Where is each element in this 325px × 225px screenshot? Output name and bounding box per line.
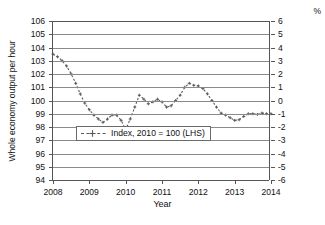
y-axis-left-tick-mark	[49, 114, 53, 115]
x-axis-tick-mark	[162, 180, 163, 184]
y-axis-left-tick-mark	[49, 61, 53, 62]
data-point-marker	[133, 106, 136, 109]
y-axis-right-tick-mark	[271, 127, 275, 128]
y-axis-left-tick-mark	[49, 101, 53, 102]
y-axis-left-tick-mark	[49, 154, 53, 155]
x-axis-tick-label: 2014	[261, 187, 280, 197]
x-axis-tick-label: 2011	[153, 187, 171, 197]
gridline	[53, 101, 269, 102]
x-axis-title: Year	[0, 199, 325, 209]
x-axis-tick-mark	[53, 180, 54, 184]
x-axis-tick-mark	[271, 180, 272, 184]
y-axis-right-tick-label: -5	[278, 162, 308, 172]
y-axis-left-tick-label: 95	[5, 162, 45, 172]
y-axis-right-tick-mark	[271, 154, 275, 155]
y-axis-right-tick-label: -3	[278, 135, 308, 145]
y-axis-right-tick-mark	[271, 140, 275, 141]
gridline	[53, 21, 269, 22]
y-axis-right-tick-label: -6	[278, 175, 308, 185]
y-axis-right-tick-mark	[271, 34, 275, 35]
x-axis-tick-label: 2010	[116, 187, 135, 197]
y-axis-left-tick-label: 102	[5, 69, 45, 79]
y-axis-right-tick-label: 2	[278, 69, 308, 79]
y-axis-left-tick-mark	[49, 48, 53, 49]
y-axis-left-tick-mark	[49, 140, 53, 141]
y-axis-right-tick-label: -1	[278, 109, 308, 119]
data-point-marker	[129, 118, 132, 121]
x-axis-tick-mark	[198, 180, 199, 184]
x-axis-tick-mark	[126, 180, 127, 184]
series-line	[53, 54, 271, 130]
x-axis-tick-mark	[235, 180, 236, 184]
data-point-marker	[56, 55, 59, 58]
plot-area: 106610551044103310221011100099-198-297-3…	[52, 21, 270, 180]
data-point-marker	[138, 94, 141, 97]
y-axis-left-tick-label: 103	[5, 56, 45, 66]
y-axis-right-tick-mark	[271, 101, 275, 102]
y-axis-right-tick-label: -4	[278, 149, 308, 159]
gridline	[53, 48, 269, 49]
x-axis-tick-label: 2008	[43, 187, 62, 197]
y-axis-left-tick-label: 99	[5, 109, 45, 119]
y-axis-right-tick-label: 5	[278, 29, 308, 39]
gridline	[53, 167, 269, 168]
legend-line-marker-icon	[81, 129, 107, 138]
gridline	[53, 114, 269, 115]
y-axis-left-tick-mark	[49, 21, 53, 22]
y-axis-right-tick-label: 3	[278, 56, 308, 66]
y-axis-right-tick-mark	[271, 74, 275, 75]
y-axis-right-tick-label: 0	[278, 96, 308, 106]
y-axis-left-tick-label: 101	[5, 82, 45, 92]
x-axis-tick-label: 2012	[189, 187, 208, 197]
gridline	[53, 180, 269, 181]
y-axis-left-tick-label: 98	[5, 122, 45, 132]
y-axis-left-tick-label: 96	[5, 149, 45, 159]
gridline	[53, 34, 269, 35]
y-axis-right-tick-label: -2	[278, 122, 308, 132]
y-axis-left-tick-label: 94	[5, 175, 45, 185]
y-axis-left-tick-label: 104	[5, 43, 45, 53]
y-axis-right-tick-label: 1	[278, 82, 308, 92]
gridline	[53, 74, 269, 75]
legend-label: Index, 2010 = 100 (LHS)	[111, 128, 205, 138]
y-axis-right-tick-mark	[271, 167, 275, 168]
data-point-marker	[179, 94, 182, 97]
x-axis-tick-label: 2013	[225, 187, 244, 197]
y-axis-right-tick-mark	[271, 114, 275, 115]
chart-container: Whole economy output per hour % 10661055…	[0, 0, 325, 225]
y-axis-left-tick-label: 97	[5, 135, 45, 145]
y-axis-left-tick-mark	[49, 74, 53, 75]
gridline	[53, 87, 269, 88]
gridline	[53, 154, 269, 155]
y-axis-right-tick-mark	[271, 87, 275, 88]
y-axis-right-tick-mark	[271, 48, 275, 49]
data-point-marker	[215, 106, 218, 109]
data-point-marker	[74, 82, 77, 85]
x-axis-tick-label: 2009	[80, 187, 99, 197]
y-axis-right-tick-label: 4	[278, 43, 308, 53]
y-axis-right-title: %	[313, 6, 321, 16]
y-axis-left-tick-mark	[49, 127, 53, 128]
y-axis-right-tick-mark	[271, 61, 275, 62]
y-axis-left-tick-label: 106	[5, 16, 45, 26]
y-axis-right-tick-label: 6	[278, 16, 308, 26]
y-axis-left-tick-label: 105	[5, 29, 45, 39]
data-point-marker	[188, 82, 191, 85]
y-axis-left-tick-mark	[49, 167, 53, 168]
y-axis-left-tick-mark	[49, 34, 53, 35]
y-axis-left-tick-mark	[49, 87, 53, 88]
data-point-marker	[147, 102, 150, 105]
y-axis-left-tick-label: 100	[5, 96, 45, 106]
x-axis-tick-mark	[89, 180, 90, 184]
chart-legend: Index, 2010 = 100 (LHS)	[76, 126, 211, 141]
gridline	[53, 61, 269, 62]
y-axis-right-tick-mark	[271, 21, 275, 22]
